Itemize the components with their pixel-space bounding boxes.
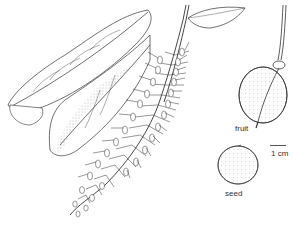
scale-bar xyxy=(270,145,286,146)
botanical-drawing xyxy=(0,0,295,225)
leaf-tips xyxy=(10,105,43,125)
seed-label: seed xyxy=(225,190,242,198)
fruit-label: fruit xyxy=(235,125,248,133)
leaf-right xyxy=(188,7,245,28)
seed-drawing xyxy=(218,145,258,184)
fruit-drawing xyxy=(239,5,287,128)
scale-label: 1 cm xyxy=(271,150,288,158)
